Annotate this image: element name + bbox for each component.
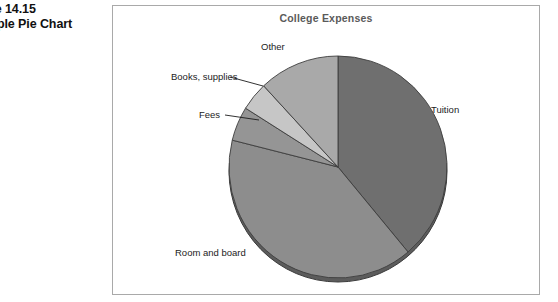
figure-caption-number: Figure 14.15 (0, 2, 114, 17)
chart-panel: College Expenses Other Books, supplies (112, 5, 540, 295)
figure-caption-title: Example Pie Chart (0, 17, 114, 32)
slice-label-fees: Fees (199, 109, 220, 120)
pie-slice-group (229, 56, 447, 278)
slice-label-other: Other (261, 41, 285, 52)
slice-label-books-supplies: Books, supplies (171, 71, 238, 82)
figure-caption: Figure 14.15 Example Pie Chart (0, 2, 114, 32)
slice-label-tuition: Tuition (431, 104, 459, 115)
slice-label-room-and-board: Room and board (175, 247, 246, 258)
pie-chart: Other Books, supplies Fees Tuition Room … (113, 6, 541, 296)
